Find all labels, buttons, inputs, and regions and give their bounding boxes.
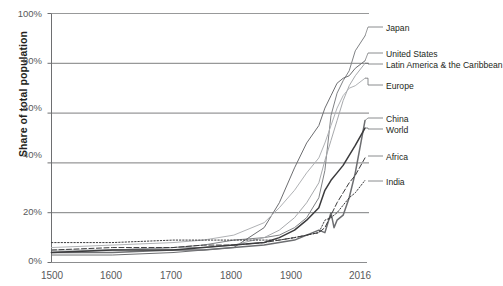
series-line-latin-america-the-caribbean	[52, 63, 366, 250]
series-line-united-states	[52, 61, 366, 255]
series-lines	[52, 36, 366, 255]
series-line-japan	[52, 36, 366, 253]
axis-lines	[48, 14, 368, 263]
series-line-india	[52, 180, 366, 242]
legend-leader-lines	[365, 27, 383, 181]
series-line-africa	[52, 158, 366, 250]
series-line-world	[52, 128, 366, 253]
gridlines	[52, 14, 370, 213]
